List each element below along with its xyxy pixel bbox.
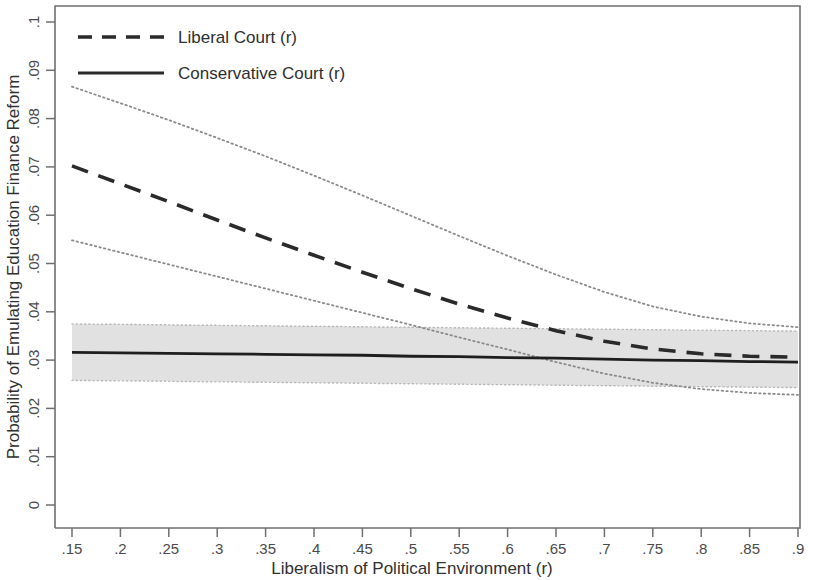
legend-label-conservative: Conservative Court (r) [178, 64, 345, 83]
x-axis-title: Liberalism of Political Environment (r) [271, 559, 553, 578]
x-tick-label-4: .35 [255, 540, 276, 557]
y-tick-label-3: .03 [25, 350, 42, 371]
x-tick-label-8: .55 [449, 540, 470, 557]
education-finance-reform-chart: .15.2.25.3.35.4.45.5.55.6.65.7.75.8.85.9… [0, 0, 814, 580]
x-tick-label-6: .45 [352, 540, 373, 557]
y-tick-label-0: 0 [25, 501, 42, 509]
x-tick-label-0: .15 [62, 540, 83, 557]
y-tick-label-10: .1 [25, 16, 42, 29]
x-tick-label-5: .4 [308, 540, 321, 557]
legend-label-liberal: Liberal Court (r) [178, 28, 297, 47]
x-tick-label-2: .25 [158, 540, 179, 557]
x-tick-label-14: .85 [739, 540, 760, 557]
x-tick-label-10: .65 [546, 540, 567, 557]
y-tick-label-6: .06 [25, 205, 42, 226]
y-tick-label-7: .07 [25, 156, 42, 177]
x-tick-label-13: .8 [695, 540, 708, 557]
x-tick-label-3: .3 [211, 540, 224, 557]
figure-container: .15.2.25.3.35.4.45.5.55.6.65.7.75.8.85.9… [0, 0, 814, 580]
y-axis-title: Probability of Emulating Education Finan… [4, 75, 23, 460]
x-tick-label-11: .7 [598, 540, 611, 557]
x-tick-label-12: .75 [642, 540, 663, 557]
y-tick-label-4: .04 [25, 301, 42, 322]
y-tick-label-2: .02 [25, 398, 42, 419]
y-tick-label-1: .01 [25, 446, 42, 467]
y-tick-label-5: .05 [25, 253, 42, 274]
x-tick-label-15: .9 [792, 540, 805, 557]
x-tick-label-1: .2 [114, 540, 127, 557]
x-tick-label-9: .6 [501, 540, 514, 557]
x-tick-label-7: .5 [405, 540, 418, 557]
y-tick-label-8: .08 [25, 108, 42, 129]
chart-background [0, 0, 814, 580]
y-tick-label-9: .09 [25, 60, 42, 81]
